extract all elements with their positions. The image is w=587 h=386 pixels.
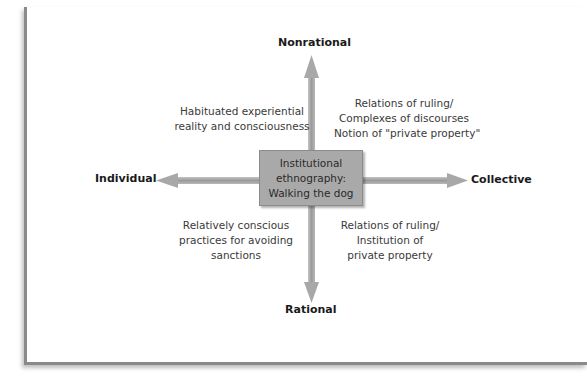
center-line-2: ethnography: [276, 171, 346, 186]
quadrant-line: Relations of ruling/ [320, 218, 460, 233]
center-line-3: Walking the dog [268, 186, 353, 201]
center-box: Institutional ethnography: Walking the d… [259, 150, 363, 206]
quadrant-bottom-right: Relations of ruling/ Institution of priv… [320, 218, 460, 263]
quadrant-top-left: Habituated experiential reality and cons… [172, 104, 312, 134]
quadrant-line: reality and consciousness [172, 119, 312, 134]
center-line-1: Institutional [280, 156, 343, 171]
quadrant-line: Notion of "private property" [334, 126, 474, 141]
quadrant-top-right: Relations of ruling/ Complexes of discou… [334, 96, 474, 141]
quadrant-line: Complexes of discourses [334, 111, 474, 126]
axis-label-left: Individual [95, 172, 156, 185]
axis-label-right: Collective [471, 173, 532, 186]
quadrant-line: Relatively conscious [166, 218, 306, 233]
quadrant-bottom-left: Relatively conscious practices for avoid… [166, 218, 306, 263]
axis-label-top: Nonrational [278, 36, 351, 49]
quadrant-line: Institution of [320, 233, 460, 248]
quadrant-line: practices for avoiding [166, 233, 306, 248]
quadrant-line: Habituated experiential [172, 104, 312, 119]
axis-label-bottom: Rational [285, 303, 337, 316]
quadrant-line: Relations of ruling/ [334, 96, 474, 111]
quadrant-line: sanctions [166, 248, 306, 263]
quadrant-line: private property [320, 248, 460, 263]
